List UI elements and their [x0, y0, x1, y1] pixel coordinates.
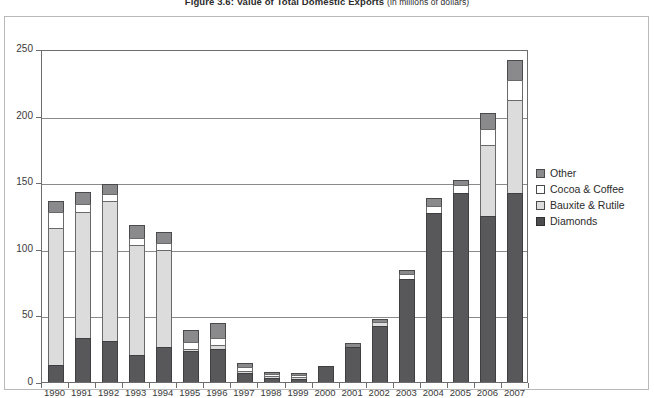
legend-swatch-icon: [536, 185, 545, 194]
bar-1991[interactable]: [75, 192, 91, 382]
bar-1993[interactable]: [129, 225, 145, 382]
y-tick-mark: [36, 50, 41, 51]
x-axis-tick-label-1999: 1999: [283, 387, 313, 398]
bar-segment-diamonds: [48, 365, 64, 382]
bar-2005[interactable]: [453, 180, 469, 382]
bar-segment-diamonds: [291, 379, 307, 382]
figure-title-text: Figure 3.6: Value of Total Domestic Expo…: [185, 0, 384, 7]
x-axis-tick-label-1991: 1991: [67, 387, 97, 398]
bar-segment-bauxite: [102, 201, 118, 341]
bar-1995[interactable]: [183, 330, 199, 382]
bar-segment-cocoa: [453, 185, 469, 193]
y-tick-mark: [36, 117, 41, 118]
bar-1994[interactable]: [156, 232, 172, 383]
legend-swatch-icon: [536, 169, 545, 178]
x-axis-tick-label-2006: 2006: [472, 387, 502, 398]
bar-segment-diamonds: [345, 347, 361, 382]
bar-segment-diamonds: [426, 213, 442, 382]
bar-segment-diamonds: [318, 366, 334, 382]
legend-item-label: Bauxite & Rutile: [550, 199, 625, 211]
bar-segment-diamonds: [480, 216, 496, 383]
page-title: Figure 3.6: Value of Total Domestic Expo…: [0, 0, 654, 7]
bar-segment-other: [183, 330, 199, 342]
legend-swatch-icon: [536, 217, 545, 226]
y-axis-tick-label: 200: [3, 110, 33, 121]
bar-1998[interactable]: [264, 372, 280, 382]
bar-segment-cocoa: [210, 338, 226, 345]
x-axis-tick-label-1993: 1993: [121, 387, 151, 398]
bar-segment-diamonds: [102, 341, 118, 382]
bar-segment-diamonds: [264, 378, 280, 382]
bar-segment-other: [75, 192, 91, 204]
y-tick-mark: [36, 183, 41, 184]
x-axis-tick-label-2000: 2000: [310, 387, 340, 398]
bar-1996[interactable]: [210, 323, 226, 382]
legend-item-diamonds[interactable]: Diamonds: [536, 214, 625, 228]
bar-2006[interactable]: [480, 113, 496, 382]
x-axis-tick-label-1990: 1990: [40, 387, 70, 398]
bar-segment-bauxite: [48, 228, 64, 365]
legend-item-bauxite-rutile[interactable]: Bauxite & Rutile: [536, 198, 625, 212]
bar-2000[interactable]: [318, 366, 334, 382]
bar-segment-diamonds: [183, 351, 199, 382]
chart-legend: OtherCocoa & CoffeeBauxite & RutileDiamo…: [536, 166, 625, 230]
plot-area: [41, 50, 528, 383]
bar-2007[interactable]: [507, 60, 523, 382]
bar-segment-diamonds: [453, 193, 469, 382]
bar-segment-diamonds: [156, 347, 172, 382]
bar-2002[interactable]: [372, 319, 388, 382]
bar-2004[interactable]: [426, 198, 442, 382]
bar-segment-diamonds: [507, 193, 523, 382]
x-axis-tick-label-1995: 1995: [175, 387, 205, 398]
y-axis-tick-label: 150: [3, 176, 33, 187]
bar-segment-bauxite: [156, 250, 172, 347]
x-axis-tick-label-1997: 1997: [229, 387, 259, 398]
bar-segment-other: [480, 113, 496, 129]
legend-item-label: Other: [550, 167, 576, 179]
y-gridline: [42, 118, 527, 119]
bar-segment-diamonds: [372, 326, 388, 382]
bar-segment-diamonds: [75, 338, 91, 382]
x-axis-tick-label-2002: 2002: [364, 387, 394, 398]
bar-segment-bauxite: [480, 145, 496, 216]
bar-segment-other: [426, 198, 442, 206]
legend-item-label: Diamonds: [550, 215, 597, 227]
bar-2003[interactable]: [399, 270, 415, 382]
bar-segment-other: [210, 323, 226, 338]
bar-1990[interactable]: [48, 201, 64, 382]
bar-segment-other: [48, 201, 64, 212]
x-tick-mark: [528, 383, 529, 388]
bar-1997[interactable]: [237, 363, 253, 382]
y-axis-tick-label: 0: [3, 376, 33, 387]
bar-segment-diamonds: [399, 279, 415, 382]
bar-segment-cocoa: [48, 212, 64, 228]
bar-1992[interactable]: [102, 184, 118, 382]
legend-item-label: Cocoa & Coffee: [550, 183, 624, 195]
y-axis-tick-label: 250: [3, 43, 33, 54]
y-axis-tick-label: 50: [3, 309, 33, 320]
x-axis-tick-label-2005: 2005: [445, 387, 475, 398]
bar-segment-cocoa: [183, 342, 199, 349]
legend-swatch-icon: [536, 201, 545, 210]
bar-segment-cocoa: [75, 204, 91, 212]
figure-title-units: (in millions of dollars): [387, 0, 469, 7]
bar-segment-other: [129, 225, 145, 238]
x-axis-tick-label-2001: 2001: [337, 387, 367, 398]
x-axis-tick-label-2003: 2003: [391, 387, 421, 398]
bar-segment-cocoa: [156, 243, 172, 250]
bar-segment-diamonds: [237, 373, 253, 382]
bar-2001[interactable]: [345, 343, 361, 382]
bar-1999[interactable]: [291, 373, 307, 382]
bar-segment-cocoa: [480, 129, 496, 145]
x-axis-tick-label-1992: 1992: [94, 387, 124, 398]
x-axis-tick-label-1994: 1994: [148, 387, 178, 398]
bar-segment-cocoa: [507, 80, 523, 100]
legend-item-cocoa-coffee[interactable]: Cocoa & Coffee: [536, 182, 625, 196]
legend-item-other[interactable]: Other: [536, 166, 625, 180]
bar-segment-bauxite: [507, 100, 523, 193]
y-tick-mark: [36, 250, 41, 251]
bar-segment-cocoa: [102, 194, 118, 201]
bar-segment-cocoa: [426, 206, 442, 213]
bar-segment-cocoa: [129, 238, 145, 245]
bar-segment-other: [507, 60, 523, 80]
